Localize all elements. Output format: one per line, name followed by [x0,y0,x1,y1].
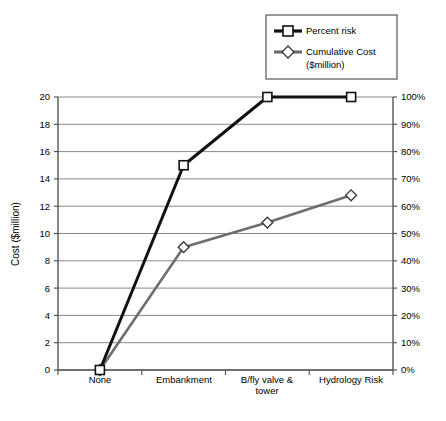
x-category-label-bfly-valve-line1: B/fly valve & [241,374,294,385]
y-axis-right-tick-label: 100% [401,91,426,102]
legend: Percent risk Cumulative Cost ($million) [266,15,397,79]
percent-risk-marker[interactable] [263,93,272,102]
legend-label-cumulative-cost-line1: Cumulative Cost [306,46,376,57]
y-axis-right-tick-label: 60% [401,201,421,212]
percent-risk-marker[interactable] [95,366,104,375]
y-axis-left-tick-label: 14 [39,173,50,184]
y-axis-right-tick-label: 0% [401,364,415,375]
y-axis-right-tick-label: 30% [401,283,421,294]
y-axis-left-tick-label: 20 [39,91,50,102]
percent-risk-marker[interactable] [179,161,188,170]
y-axis-left-tick-label: 16 [39,146,50,157]
y-axis-left-tick-label: 6 [45,283,50,294]
x-category-label-embankment: Embankment [156,374,212,385]
chart-container: 20181614121086420 100%90%80%70%60%50%40%… [0,0,446,421]
y-axis-left-tick-label: 8 [45,255,50,266]
y-axis-left-tick-label: 4 [45,310,50,321]
line-chart: 20181614121086420 100%90%80%70%60%50%40%… [0,0,446,421]
percent-risk-marker[interactable] [347,93,356,102]
y-axis-left-tick-label: 12 [39,201,50,212]
y-axis-right-tick-label: 50% [401,228,421,239]
y-axis-right-tick-label: 70% [401,173,421,184]
y-axis-left-tick-label: 10 [39,228,50,239]
y-axis-right-tick-label: 80% [401,146,421,157]
y-axis-right-tick-label: 20% [401,310,421,321]
square-marker-icon [283,26,293,36]
legend-item-percent-risk[interactable]: Percent risk [274,25,356,36]
y-axis-left-tick-label: 18 [39,119,50,130]
y-axis-right-tick-label: 90% [401,119,421,130]
x-category-label-bfly-valve-line2: tower [255,385,278,396]
legend-label-percent-risk: Percent risk [306,25,356,36]
y-axis-title: Cost ($million) [10,202,21,266]
y-axis-right-tick-label: 40% [401,255,421,266]
legend-label-cumulative-cost-line2: ($million) [306,59,345,70]
x-category-label-hydrology-risk: Hydrology Risk [319,374,383,385]
y-axis-left-tick-label: 0 [45,364,50,375]
y-axis-right-tick-label: 10% [401,337,421,348]
y-axis-left-tick-label: 2 [45,337,50,348]
